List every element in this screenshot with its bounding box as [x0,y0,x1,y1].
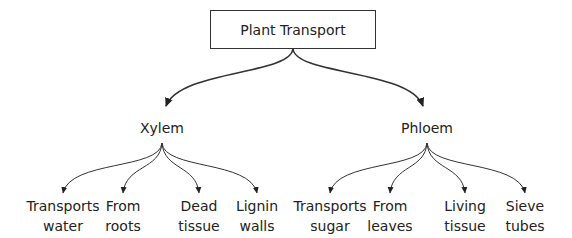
edge-root-phloem [293,49,423,106]
leaf-node: Living tissue [444,196,486,236]
leaf-line: roots [105,216,140,236]
leaf-line: Sieve [505,196,544,216]
leaf-line: From [367,196,412,216]
leaf-line: Dead [178,196,219,216]
root-node: Plant Transport [210,10,376,49]
plant-transport-diagram: Plant Transport Xylem Phloem Transports … [0,0,572,238]
leaf-line: Transports [294,196,367,216]
leaf-line: From [105,196,140,216]
leaf-node: Transports sugar [294,196,367,236]
leaf-line: tubes [505,216,544,236]
leaf-node: Transports water [27,196,100,236]
leaf-line: tissue [444,216,486,236]
root-label: Plant Transport [240,22,345,38]
leaf-node: Sieve tubes [505,196,544,236]
leaf-line: Transports [27,196,100,216]
leaf-line: tissue [178,216,219,236]
leaf-line: Lignin [236,196,278,216]
leaf-line: leaves [367,216,412,236]
leaf-node: Dead tissue [178,196,219,236]
leaf-line: sugar [294,216,367,236]
leaf-node: Lignin walls [236,196,278,236]
leaf-line: Living [444,196,486,216]
leaf-line: water [27,216,100,236]
leaf-node: From roots [105,196,140,236]
leaf-line: walls [236,216,278,236]
branch-node-phloem: Phloem [401,120,453,136]
branch-node-xylem: Xylem [140,120,184,136]
edge-root-xylem [166,49,293,106]
leaf-node: From leaves [367,196,412,236]
